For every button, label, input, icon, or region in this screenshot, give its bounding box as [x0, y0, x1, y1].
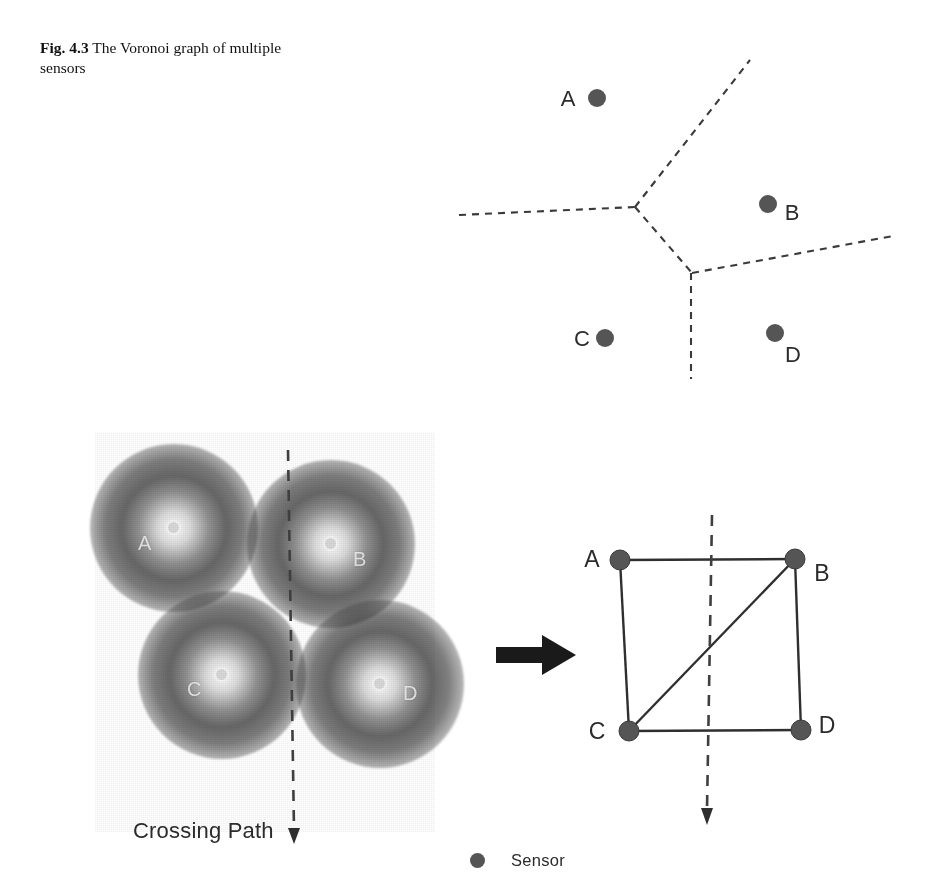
graph-edge-a-b	[620, 559, 795, 560]
crossing-path-label: Crossing Path	[133, 818, 274, 844]
sensor-dot-b	[759, 195, 777, 213]
graph-node-b	[785, 549, 805, 569]
graph-label-d: D	[819, 712, 836, 738]
graph-node-d	[791, 720, 811, 740]
transform-arrow-panel	[492, 630, 584, 685]
sensor-dot-a	[588, 89, 606, 107]
voronoi-edge-right	[692, 236, 893, 273]
sensor-coverage-field: A B C D	[95, 432, 435, 832]
sensor-dot-icon	[470, 853, 485, 868]
graph-label-b: B	[814, 560, 829, 586]
crossing-path-left-arrowhead	[288, 828, 300, 844]
figure-caption: Fig. 4.3 The Voronoi graph of multiple s…	[40, 38, 310, 78]
graph-edge-c-d	[629, 730, 801, 731]
sensor-dot-c	[596, 329, 614, 347]
legend-label-sensor: Sensor	[511, 851, 565, 870]
crossing-path-right-arrowhead	[701, 808, 713, 825]
voronoi-diagram-svg: A B C D	[430, 50, 910, 395]
graph-panel: A B C D	[575, 505, 865, 845]
crossing-path-left-svg	[95, 432, 435, 832]
figure-number: Fig. 4.3	[40, 39, 89, 56]
voronoi-edge-upper-right	[635, 60, 750, 207]
voronoi-label-c: C	[574, 326, 590, 351]
voronoi-sensor-labels: A B C D	[561, 86, 801, 367]
graph-edge-b-d	[795, 559, 801, 730]
graph-label-c: C	[589, 718, 606, 744]
right-arrow-icon	[496, 635, 576, 675]
graph-node-c	[619, 721, 639, 741]
voronoi-panel: A B C D	[430, 50, 910, 395]
legend: Sensor	[470, 851, 565, 870]
voronoi-label-a: A	[561, 86, 576, 111]
voronoi-edge-left	[459, 207, 635, 215]
crossing-path-right	[701, 515, 713, 825]
voronoi-sensors	[588, 89, 784, 347]
voronoi-label-b: B	[785, 200, 800, 225]
graph-node-a	[610, 550, 630, 570]
voronoi-edge-middle	[635, 207, 692, 273]
sensor-dot-d	[766, 324, 784, 342]
figure-root: Fig. 4.3 The Voronoi graph of multiple s…	[0, 0, 928, 888]
graph-edge-a-c	[620, 560, 629, 731]
voronoi-edges	[459, 60, 893, 379]
voronoi-label-d: D	[785, 342, 801, 367]
transform-arrow-icon	[492, 630, 584, 685]
graph-label-a: A	[584, 546, 600, 572]
crossing-path-left-line	[288, 450, 294, 830]
sensor-graph-svg: A B C D	[575, 505, 865, 845]
